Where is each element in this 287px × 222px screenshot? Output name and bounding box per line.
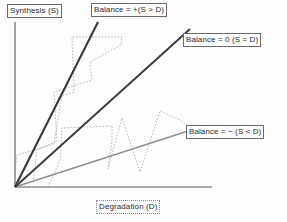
balance-positive-label: Balance = +(S > D) — [91, 3, 167, 17]
fluctuation-path-upper — [15, 37, 122, 184]
balance-zero-label: Balance = 0 (S = D) — [183, 33, 261, 47]
y-axis-label: Synthesis (S) — [7, 4, 62, 18]
fluctuation-path-lower — [48, 111, 188, 187]
balance-zero-line — [15, 29, 190, 187]
balance-negative-line — [15, 131, 188, 187]
balance-positive-line — [15, 22, 98, 187]
x-axis-label: Degradation (D) — [96, 200, 160, 214]
balance-negative-label: Balance = − (S < D) — [186, 125, 264, 139]
